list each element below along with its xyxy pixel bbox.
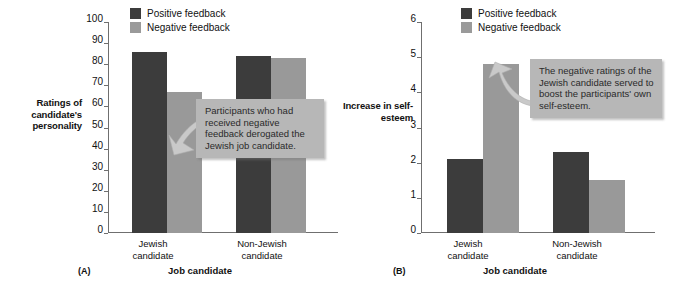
y-axis-tick-label: 80 [92, 60, 103, 61]
y-axis-line-b [421, 22, 422, 233]
legend-swatch-positive-icon [130, 8, 141, 19]
group-label-b-jewish: Jewish candidate [423, 238, 513, 261]
y-axis-tick-label: 50 [92, 124, 103, 125]
y-axis-line-a [108, 22, 109, 233]
y-axis-tick [104, 64, 108, 65]
x-axis-title-b: Job candidate [425, 265, 605, 276]
y-axis-title-b: Increase in self-esteem [337, 100, 413, 123]
bar-negative [589, 180, 625, 233]
y-axis-tick [104, 233, 108, 234]
y-axis-tick [417, 128, 421, 129]
y-axis-tick [104, 106, 108, 107]
callout-a: Participants who had received negative f… [196, 99, 324, 158]
y-axis-tick [417, 233, 421, 234]
legend-label-positive: Positive feedback [147, 8, 225, 19]
y-axis-tick-label: 60 [92, 102, 103, 103]
legend-swatch-positive-icon [461, 8, 472, 19]
y-axis-tick-label: 2 [410, 159, 416, 160]
y-axis-tick [104, 212, 108, 213]
y-axis-tick-label: 0 [97, 229, 103, 230]
legend-item-positive: Positive feedback [461, 8, 561, 19]
y-axis-tick [104, 85, 108, 86]
y-axis-tick [104, 128, 108, 129]
bar-positive [132, 52, 167, 233]
y-axis-tick-label: 0 [410, 229, 416, 230]
group-label-a-nonjewish: Non-Jewish candidate [212, 238, 312, 261]
y-axis-tick-label: 20 [92, 187, 103, 188]
y-axis-tick-label: 3 [410, 124, 416, 125]
group-label-a-jewish: Jewish candidate [108, 238, 198, 261]
y-axis-tick [104, 43, 108, 44]
y-axis-tick [417, 22, 421, 23]
y-axis-tick [417, 92, 421, 93]
x-axis-title-a: Job candidate [110, 265, 290, 276]
bar-positive [447, 159, 483, 233]
y-axis-tick [104, 170, 108, 171]
y-axis-tick-label: 10 [92, 208, 103, 209]
callout-b: The negative ratings of the Jewish candi… [530, 59, 662, 118]
y-axis-tick-label: 1 [410, 194, 416, 195]
y-axis-tick-label: 90 [92, 39, 103, 40]
chart-panel-a: Ratings of candidate's personality Posit… [0, 0, 336, 296]
y-axis-tick-label: 40 [92, 145, 103, 146]
legend-label-positive: Positive feedback [478, 8, 556, 19]
group-label-b-nonjewish: Non-Jewish candidate [527, 238, 627, 261]
y-axis-tick [417, 163, 421, 164]
y-axis-title-a: Ratings of candidate's personality [2, 97, 82, 132]
y-axis-tick-label: 4 [410, 88, 416, 89]
y-axis-tick [417, 57, 421, 58]
y-axis-tick [104, 22, 108, 23]
y-axis-tick-label: 30 [92, 166, 103, 167]
y-axis-tick-label: 70 [92, 81, 103, 82]
y-axis-tick [417, 198, 421, 199]
panel-letter-b: (B) [393, 266, 406, 276]
y-axis-tick-label: 6 [410, 18, 416, 19]
chart-panel-b: Increase in self-esteem Positive feedbac… [337, 0, 673, 296]
plot-area-b: 0123456 [421, 22, 637, 233]
y-axis-tick-label: 5 [410, 53, 416, 54]
bar-positive [553, 152, 589, 233]
panel-letter-a: (A) [78, 266, 91, 276]
y-axis-tick [104, 149, 108, 150]
legend-item-positive: Positive feedback [130, 8, 230, 19]
y-axis-tick [104, 191, 108, 192]
y-axis-tick-label: 100 [86, 18, 103, 19]
